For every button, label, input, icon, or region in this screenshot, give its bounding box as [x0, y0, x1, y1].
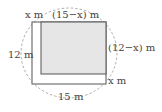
label-outer-height: 12 m [8, 50, 33, 60]
inner-shaded-rectangle [41, 22, 106, 74]
label-top-left-x: x m [25, 10, 43, 20]
label-bottom-right-x: x m [108, 76, 126, 86]
label-inner-width: (15−x) m [52, 10, 99, 20]
label-outer-width: 15 m [58, 92, 83, 102]
label-inner-height: (12−x) m [108, 43, 155, 53]
